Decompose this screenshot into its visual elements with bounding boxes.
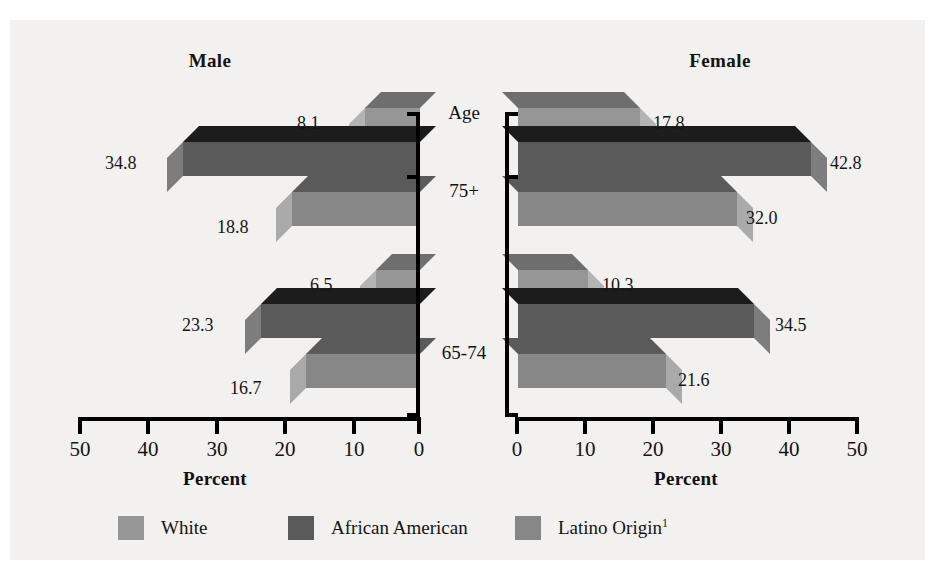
age-axis-tick-right [505, 175, 518, 179]
legend-label-latino-text: Latino Origin [558, 518, 662, 539]
age-group-label-65: 65-74 [410, 342, 518, 364]
age-axis-tick-left [407, 175, 420, 179]
legend-label-white: White [161, 517, 207, 539]
value-label-female-75-latino: 32.0 [746, 208, 778, 229]
legend-label-latino-footnote: 1 [662, 516, 668, 530]
chart-legend: White African American Latino Origin1 [10, 512, 925, 552]
legend-item-african-american: African American [288, 512, 468, 544]
bar-top-face [376, 254, 436, 270]
x-axis-label-male-40: 40 [128, 437, 168, 462]
x-axis-label-male-20: 20 [265, 437, 305, 462]
x-axis-label-female-50: 50 [837, 437, 877, 462]
x-axis-label-male-0: 0 [399, 437, 439, 462]
bar-male-65-latino [306, 354, 420, 388]
x-axis-label-male-30: 30 [197, 437, 237, 462]
age-axis-bracket-left [407, 112, 420, 417]
x-axis-label-female-40: 40 [769, 437, 809, 462]
x-axis-label-female-30: 30 [701, 437, 741, 462]
bar-front-face [518, 304, 754, 338]
bar-side-face [811, 142, 827, 192]
x-axis-tick-female-50 [855, 417, 859, 434]
bar-male-75-african-american [183, 142, 420, 176]
bar-front-face [518, 354, 666, 388]
x-axis-tick-male-0 [417, 417, 421, 434]
x-axis-female [515, 417, 858, 421]
bar-side-face [276, 192, 292, 242]
legend-item-white: White [118, 512, 207, 544]
x-axis-tick-female-40 [787, 417, 791, 434]
bar-front-face [261, 304, 420, 338]
bar-front-face [518, 142, 811, 176]
bar-side-face [245, 304, 261, 354]
age-axis-bracket-right [505, 112, 518, 417]
x-axis-label-female-0: 0 [497, 437, 537, 462]
value-label-female-75-african-american: 42.8 [830, 153, 862, 174]
value-label-male-75-african-american: 34.8 [105, 153, 137, 174]
x-axis-label-male-50: 50 [60, 437, 100, 462]
value-label-female-65-latino: 21.6 [678, 370, 710, 391]
plot-area-female [518, 20, 928, 330]
bar-top-face [502, 92, 640, 108]
age-group-label-75: 75+ [410, 180, 518, 202]
bar-top-face [502, 176, 737, 192]
x-axis-tick-male-40 [146, 417, 150, 434]
x-axis-tick-female-30 [719, 417, 723, 434]
chart-figure: Male Female [10, 20, 925, 560]
x-axis-label-female-20: 20 [633, 437, 673, 462]
bar-male-75-latino [292, 192, 420, 226]
bar-front-face [292, 192, 420, 226]
legend-label-latino: Latino Origin1 [558, 516, 668, 539]
value-label-male-65-white: 6.5 [310, 275, 333, 296]
value-label-male-75-latino: 18.8 [217, 217, 249, 238]
legend-swatch-african-american-icon [288, 516, 314, 540]
bar-front-face [518, 192, 737, 226]
bar-top-face [502, 338, 666, 354]
legend-label-african-american: African American [331, 517, 468, 539]
plot-area-male [10, 20, 420, 330]
value-label-male-65-latino: 16.7 [230, 378, 262, 399]
x-axis-male [78, 417, 421, 421]
x-axis-title-male: Percent [125, 468, 305, 490]
x-axis-tick-female-10 [583, 417, 587, 434]
value-label-male-75-white: 8.1 [297, 113, 320, 134]
bar-male-65-african-american [261, 304, 420, 338]
value-label-male-65-african-american: 23.3 [182, 315, 214, 336]
age-axis-title: Age [410, 102, 518, 124]
x-axis-title-female: Percent [596, 468, 776, 490]
bar-female-65-african-american [518, 304, 754, 338]
bar-front-face [183, 142, 420, 176]
bar-side-face [754, 304, 770, 354]
bar-female-65-latino [518, 354, 666, 388]
x-axis-label-male-10: 10 [334, 437, 374, 462]
legend-swatch-latino-icon [515, 516, 541, 540]
bar-front-face [306, 354, 420, 388]
value-label-female-75-white: 17.8 [653, 113, 685, 134]
legend-swatch-white-icon [118, 516, 144, 540]
legend-item-latino: Latino Origin1 [515, 512, 668, 544]
x-axis-label-female-10: 10 [565, 437, 605, 462]
x-axis-tick-male-30 [215, 417, 219, 434]
bar-side-face [167, 142, 183, 192]
bar-female-75-african-american [518, 142, 811, 176]
value-label-female-65-african-american: 34.5 [775, 315, 807, 336]
x-axis-tick-male-10 [352, 417, 356, 434]
bar-female-75-latino [518, 192, 737, 226]
value-label-female-65-white: 10.3 [602, 275, 634, 296]
x-axis-tick-male-50 [78, 417, 82, 434]
x-axis-tick-female-20 [651, 417, 655, 434]
x-axis-tick-male-20 [283, 417, 287, 434]
x-axis-tick-female-0 [515, 417, 519, 434]
bar-side-face [290, 354, 306, 404]
